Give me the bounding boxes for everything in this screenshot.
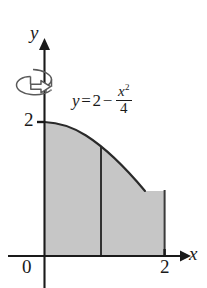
equation-constant: 2 [93,91,102,110]
fraction-denominator: 4 [116,101,132,116]
equation-equals: = [80,91,93,110]
axis-arrow-up-icon [39,38,50,50]
revolve-arrow-icon [17,70,52,95]
origin-label: 0 [22,256,32,278]
y-tick-label-2: 2 [24,109,34,131]
equation-label: y=2− x2 4 [72,84,132,117]
shaded-region [45,122,166,256]
numerator-base: x [118,83,125,99]
x-axis-label: x [189,243,197,265]
x-tick-label-2: 2 [160,256,170,278]
equation-lhs: y [72,91,80,110]
fraction-numerator: x2 [116,84,132,99]
equation-operator: − [101,91,114,110]
y-axis-label: y [30,22,38,44]
equation-fraction: x2 4 [116,84,132,117]
numerator-exponent: 2 [125,82,130,92]
